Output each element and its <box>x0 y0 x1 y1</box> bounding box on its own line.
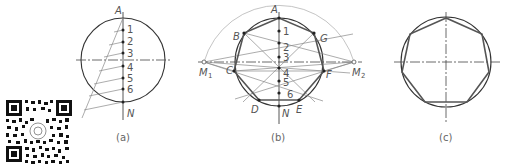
division-label-2: 2 <box>127 36 133 47</box>
caption-a: (a) <box>116 132 130 143</box>
caption-c: (c) <box>439 132 452 143</box>
figure-c: (c) <box>394 12 500 143</box>
b-division-label-1: 1 <box>283 26 289 37</box>
division-label-1: 1 <box>127 24 133 35</box>
vertex-label-f: F <box>326 69 332 80</box>
vertex-label-g: G <box>320 33 328 44</box>
vertex-label-b: B <box>233 31 240 42</box>
heptagon-c <box>402 18 489 102</box>
focus-label-m2: M <box>352 67 361 78</box>
heptagon-construction-diagram: A 1 2 3 4 5 6 N (a) <box>0 0 506 166</box>
focus-sub-1: 1 <box>208 72 212 80</box>
division-label-3: 3 <box>127 48 133 59</box>
label-a-bottom: N <box>127 108 135 119</box>
vertex-label-c: C <box>226 65 233 76</box>
focus-label-m1: M <box>199 67 208 78</box>
focus-m2 <box>352 60 356 64</box>
caption-b: (b) <box>271 132 285 143</box>
focus-m1 <box>202 60 206 64</box>
qr-code-icon <box>2 97 74 165</box>
figure-b: A B C D E F G 1 2 3 4 5 6 N M 1 M 2 (b) <box>198 4 365 143</box>
vertex-label-a: A <box>270 4 278 15</box>
b-division-label-5: 5 <box>283 77 289 88</box>
b-division-label-6: 6 <box>287 89 293 100</box>
vertex-label-d: D <box>251 104 259 115</box>
focus-sub-2: 2 <box>361 72 365 80</box>
division-label-6: 6 <box>127 84 133 95</box>
figure-a: A 1 2 3 4 5 6 N (a) <box>76 5 170 143</box>
vertex-label-e: E <box>296 104 303 115</box>
division-label-4: 4 <box>127 62 133 73</box>
b-division-label-3: 3 <box>283 52 289 63</box>
b-label-n: N <box>282 108 290 119</box>
division-label-5: 5 <box>127 73 133 84</box>
label-a-top: A <box>114 5 122 16</box>
